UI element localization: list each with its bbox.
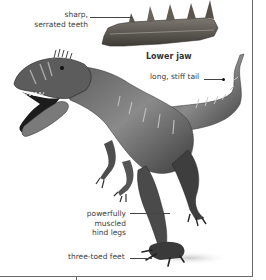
label-tail: long, stiff tail <box>150 72 199 82</box>
label-legs-line-1: powerfully <box>60 209 126 219</box>
leader-teeth <box>90 17 132 18</box>
dinosaur-illustration <box>0 0 266 280</box>
frame-border-right <box>252 0 253 276</box>
frame-tick <box>76 276 77 280</box>
dinosaur-head <box>14 49 91 136</box>
leader-tail <box>204 79 224 80</box>
label-teeth: sharp, serrated teeth <box>20 10 88 29</box>
label-feet: three-toed feet <box>68 252 125 262</box>
label-teeth-line-1: sharp, <box>20 10 88 20</box>
label-legs-line-2: muscled <box>60 219 126 229</box>
label-legs-line-3: hind legs <box>60 228 126 238</box>
label-legs: powerfully muscled hind legs <box>60 209 126 238</box>
frame-border-bottom <box>0 276 253 277</box>
label-teeth-line-2: serrated teeth <box>20 20 88 30</box>
leader-legs <box>130 213 170 214</box>
inset-caption: Lower jaw <box>146 52 192 62</box>
lower-jaw-fossil <box>102 0 218 46</box>
leader-feet <box>130 258 152 259</box>
leader-dot-tail <box>222 78 225 81</box>
